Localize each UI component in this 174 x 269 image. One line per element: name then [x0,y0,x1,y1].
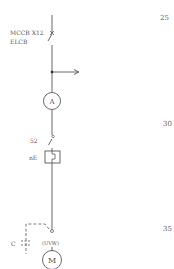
capacitor-icon [21,224,49,254]
line-number-35: 35 [163,225,172,233]
line-number-30: 30 [163,120,172,128]
line-number-25: 25 [160,14,169,22]
terminal-icon [51,230,54,233]
motor-symbol: M [48,256,56,265]
ammeter-symbol: A [48,98,55,106]
single-line-diagram: A M MCCB X12 ELCB 52 nE C (UVW) 25 30 35 [0,0,174,269]
breaker-label-1: MCCB X12 [10,29,44,36]
terminal-label: (UVW) [42,240,59,246]
overload-relay-icon [45,151,60,163]
breaker-label-2: ELCB [10,38,28,45]
capacitor-label: C [11,240,16,247]
breaker-switch-icon [48,31,54,92]
overload-relay-label: nE [29,154,37,161]
branch-arrow-icon [51,70,79,75]
contactor-switch-icon [49,135,55,151]
contactor-label: 52 [30,137,38,144]
